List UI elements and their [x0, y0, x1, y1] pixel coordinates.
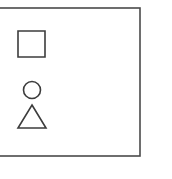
diagram-canvas: [0, 0, 172, 179]
diagram-svg: [0, 0, 172, 179]
